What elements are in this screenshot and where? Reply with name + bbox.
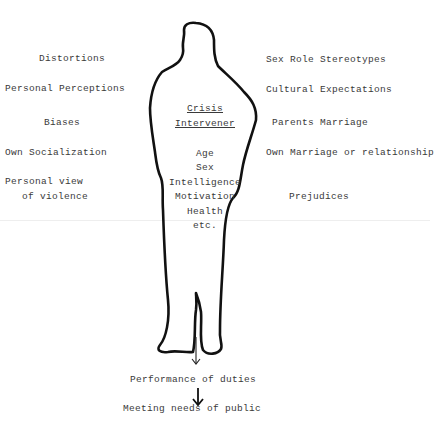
left-factor-distortions: Distortions xyxy=(39,53,105,64)
right-factor-prejudices: Prejudices xyxy=(289,191,349,202)
right-factor-own-marriage: Own Marriage or relationship xyxy=(266,147,434,158)
attribute-intelligence: Intelligence xyxy=(150,177,260,188)
figure-title-intervener: Intervener xyxy=(160,118,250,129)
right-factor-cultural-expectations: Cultural Expectations xyxy=(266,84,392,95)
left-factor-personal-perceptions: Personal Perceptions xyxy=(5,83,125,94)
attribute-etc: etc. xyxy=(150,220,260,231)
attribute-motivation: Motivation xyxy=(150,191,260,202)
right-factor-parents-marriage: Parents Marriage xyxy=(272,117,368,128)
left-factor-own-socialization: Own Socialization xyxy=(5,147,107,158)
attribute-sex: Sex xyxy=(150,162,260,173)
flow-performance-of-duties: Performance of duties xyxy=(130,374,256,385)
figure-title-crisis: Crisis xyxy=(160,103,250,114)
flow-meeting-needs-of-public: Meeting needs of public xyxy=(123,403,261,414)
right-factor-sex-role-stereotypes: Sex Role Stereotypes xyxy=(266,54,386,65)
attribute-health: Health xyxy=(150,206,260,217)
left-factor-biases: Biases xyxy=(44,117,80,128)
attribute-age: Age xyxy=(150,148,260,159)
left-factor-of-violence: of violence xyxy=(22,191,88,202)
left-factor-personal-view: Personal view xyxy=(5,176,83,187)
